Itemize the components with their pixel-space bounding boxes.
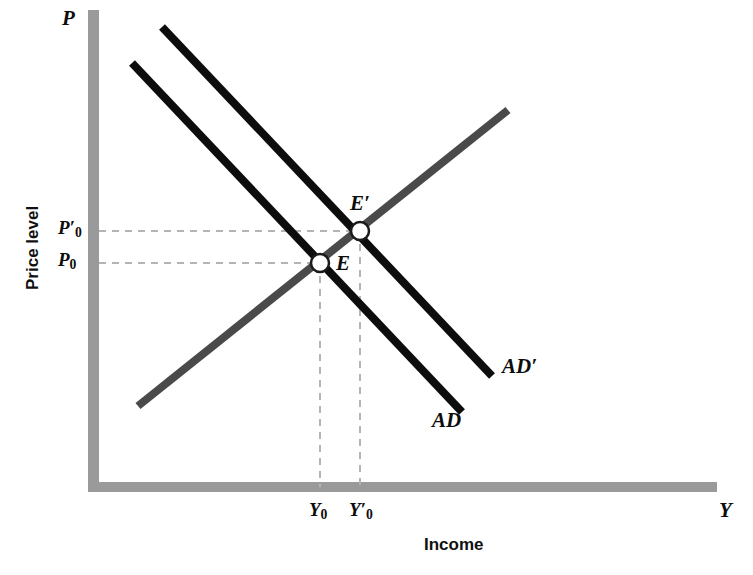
tick-label-p0-prime: P′0	[58, 218, 82, 240]
tick-p0-sub: 0	[70, 257, 77, 272]
income-axis-bar	[88, 482, 717, 492]
income-axis-title: Income	[424, 536, 484, 553]
tick-label-y0: Y0	[309, 500, 327, 522]
price-level-axis-title: Price level	[24, 206, 41, 290]
price-axis-symbol: P	[62, 8, 75, 29]
equilibrium-new-marker	[351, 222, 369, 240]
tick-p0-base: P	[58, 249, 70, 270]
tick-label-y0-prime: Y′0	[349, 500, 373, 522]
equilibrium-new-text: E	[350, 191, 364, 215]
tick-p0-prime-sub: 0	[75, 225, 82, 240]
aggregate-demand-label: AD	[432, 410, 461, 431]
equilibrium-initial-text: E	[336, 251, 350, 275]
income-axis-symbol: Y	[719, 500, 732, 521]
equilibrium-new-label: E′	[350, 193, 370, 214]
tick-y0-base: Y	[309, 499, 321, 520]
tick-y0-prime-base: Y	[349, 499, 361, 520]
tick-p0-prime-base: P	[58, 217, 70, 238]
equilibrium-initial-marker	[311, 254, 329, 272]
equilibrium-initial-label: E	[336, 253, 350, 274]
tick-label-p0: P0	[58, 250, 76, 272]
tick-y0-prime-sub: 0	[366, 507, 373, 522]
plot-canvas	[0, 0, 753, 575]
equilibrium-new-prime: ′	[364, 191, 370, 215]
aggregate-demand-shifted-label: AD′	[502, 356, 537, 377]
tick-y0-sub: 0	[321, 507, 328, 522]
aggregate-demand-shifted-curve	[162, 27, 492, 376]
aggregate-demand-curve	[132, 63, 462, 412]
price-axis-bar	[88, 10, 99, 490]
economics-figure: P Y Price level Income P′0 P0 Y0 Y′0 E E…	[0, 0, 753, 575]
